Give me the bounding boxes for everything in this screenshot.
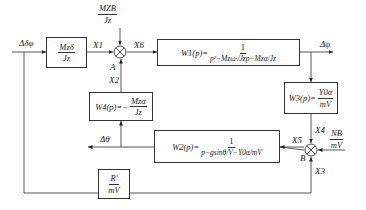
signal-x4: X4: [315, 126, 325, 135]
input-label: Δδφ: [19, 39, 33, 48]
w3-block: W3(p)= Y0αmV: [284, 82, 338, 114]
w1-block: W1(p)= 1p²−Mzω·/Jzp−Mzα/Jz: [157, 39, 300, 66]
w4-block: W4(p)=− MzαJz: [89, 92, 153, 121]
signal-x6: X6: [134, 41, 144, 50]
junction-a-label: A: [110, 63, 116, 72]
summing-junction-b: [305, 144, 317, 156]
signal-x1: X1: [93, 41, 103, 50]
summing-junction-a: [114, 46, 126, 58]
signal-x2: X2: [109, 76, 119, 85]
r-gain-block: R′mV: [98, 169, 130, 199]
block-diagram: Δδφ MzδJz X1 A X2 X6 MZBJz W1(p)= 1p²−Mz…: [0, 0, 366, 210]
w2-block: W2(p)= 1p−gsinθ/V−Y0α/mV: [154, 130, 280, 163]
gain-input-num: Mzδ: [58, 43, 74, 54]
signal-x5: X5: [292, 136, 302, 145]
gain-input-den: Jz: [63, 53, 70, 63]
junction-b-label: B: [300, 154, 306, 163]
signal-x3: X3: [315, 167, 325, 176]
disturbance-b: NBmV: [330, 128, 343, 149]
disturbance-a: MZBJz: [98, 3, 117, 24]
gain-box-input: MzδJz: [46, 37, 87, 68]
theta-label: Δθ: [100, 135, 110, 144]
output-label: Δφ: [320, 40, 330, 49]
